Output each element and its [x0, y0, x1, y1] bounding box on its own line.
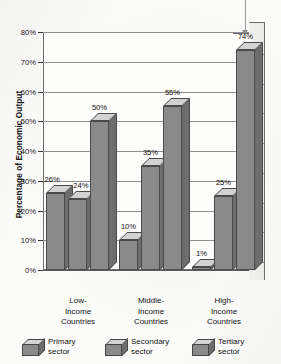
y-axis-tick-mark [38, 151, 43, 152]
bar-front-face [46, 193, 65, 270]
legend-cube-front-face [192, 344, 209, 356]
legend-label: Primarysector [48, 334, 76, 357]
bar-value-label: 10% [121, 222, 136, 231]
legend-cube-icon [105, 339, 128, 356]
chart-legend: PrimarysectorSecondarysectorTertiarysect… [0, 334, 281, 364]
bar-side-face [109, 113, 117, 270]
y-axis-tick-label: 0% [25, 266, 36, 275]
y-axis-tick-label: 80% [21, 28, 36, 37]
bar-group: 1%25%74% [192, 32, 263, 270]
category-label-line: Income [186, 307, 262, 318]
legend-label-line: sector [48, 347, 76, 357]
category-label-line: Countries [186, 317, 262, 328]
y-axis-tick-mark [38, 92, 43, 93]
legend-entry[interactable]: Secondarysector [105, 334, 169, 357]
bar[interactable]: 55% [163, 106, 182, 270]
legend-cube-icon [192, 339, 215, 356]
bar[interactable]: 10% [119, 240, 138, 270]
bar-front-face [90, 121, 109, 270]
bar-value-label: 1% [196, 249, 207, 258]
legend-entry[interactable]: Tertiarysector [192, 334, 244, 357]
bar-front-face [68, 199, 87, 270]
bar-value-label: 25% [216, 178, 231, 187]
bar[interactable]: 50% [90, 121, 109, 270]
bar-group: 26%24%50% [46, 32, 117, 270]
category-label: High-IncomeCountries [186, 296, 262, 328]
y-axis-tick-mark [38, 270, 43, 271]
legend-label-line: Tertiary [218, 337, 244, 347]
bar-front-face [192, 267, 211, 270]
bar[interactable]: 24% [68, 199, 87, 270]
legend-label-line: Secondary [131, 337, 169, 347]
category-label-line: High- [186, 296, 262, 307]
bar-front-face [163, 106, 182, 270]
bar-side-face [182, 98, 190, 270]
y-axis-tick-mark [38, 121, 43, 122]
y-axis-tick-mark [38, 32, 43, 33]
category-label-line: Income [113, 307, 189, 318]
gridline [43, 270, 249, 271]
category-label-line: Low- [40, 296, 116, 307]
legend-cube-front-face [22, 344, 39, 356]
bar-value-label: 55% [165, 88, 180, 97]
bar[interactable]: 35% [141, 166, 160, 270]
y-axis-tick-mark [38, 240, 43, 241]
category-label: Low-IncomeCountries [40, 296, 116, 328]
legend-entry[interactable]: Primarysector [22, 334, 76, 357]
bar[interactable]: 26% [46, 193, 65, 270]
legend-label-line: sector [218, 347, 244, 357]
plot-area: 80%70%60%50%40%30%20%10%0% 26%24%50%10%3… [43, 22, 265, 292]
y-axis-tick-mark [38, 62, 43, 63]
bar-value-label: 35% [143, 148, 158, 157]
y-axis-tick-label: 20% [21, 206, 36, 215]
legend-label-line: sector [131, 347, 169, 357]
bar-side-face [255, 42, 263, 270]
bar-front-face [119, 240, 138, 270]
y-axis-tick-label: 10% [21, 236, 36, 245]
legend-cube-icon [22, 339, 45, 356]
bar-front-face [214, 196, 233, 270]
y-axis-tick-label: 60% [21, 87, 36, 96]
grouped-bar-chart-figure: Percentage of Economic Output 80%70%60%5… [0, 0, 281, 364]
y-axis-tick-label: 70% [21, 57, 36, 66]
y-axis-tick-mark [38, 211, 43, 212]
category-label-line: Countries [113, 317, 189, 328]
bar[interactable]: 1% [192, 267, 211, 270]
bar[interactable]: 25% [214, 196, 233, 270]
legend-label: Secondarysector [131, 334, 169, 357]
category-label-line: Middle- [113, 296, 189, 307]
category-label-line: Countries [40, 317, 116, 328]
bar-value-label: 50% [92, 103, 107, 112]
y-axis-tick-label: 40% [21, 147, 36, 156]
bar-front-face [236, 50, 255, 270]
bar-group: 10%35%55% [119, 32, 190, 270]
y-axis-tick-label: 50% [21, 117, 36, 126]
legend-label: Tertiarysector [218, 334, 244, 357]
bar[interactable]: 74% [236, 50, 255, 270]
bar-value-label: 24% [73, 181, 88, 190]
legend-cube-front-face [105, 344, 122, 356]
bar-value-label: 26% [45, 175, 60, 184]
y-axis-tick-label: 30% [21, 176, 36, 185]
y-axis-tick-mark [38, 181, 43, 182]
category-label: Middle-IncomeCountries [113, 296, 189, 328]
bar-value-label: 74% [238, 32, 253, 41]
bar-front-face [141, 166, 160, 270]
category-label-line: Income [40, 307, 116, 318]
legend-label-line: Primary [48, 337, 76, 347]
